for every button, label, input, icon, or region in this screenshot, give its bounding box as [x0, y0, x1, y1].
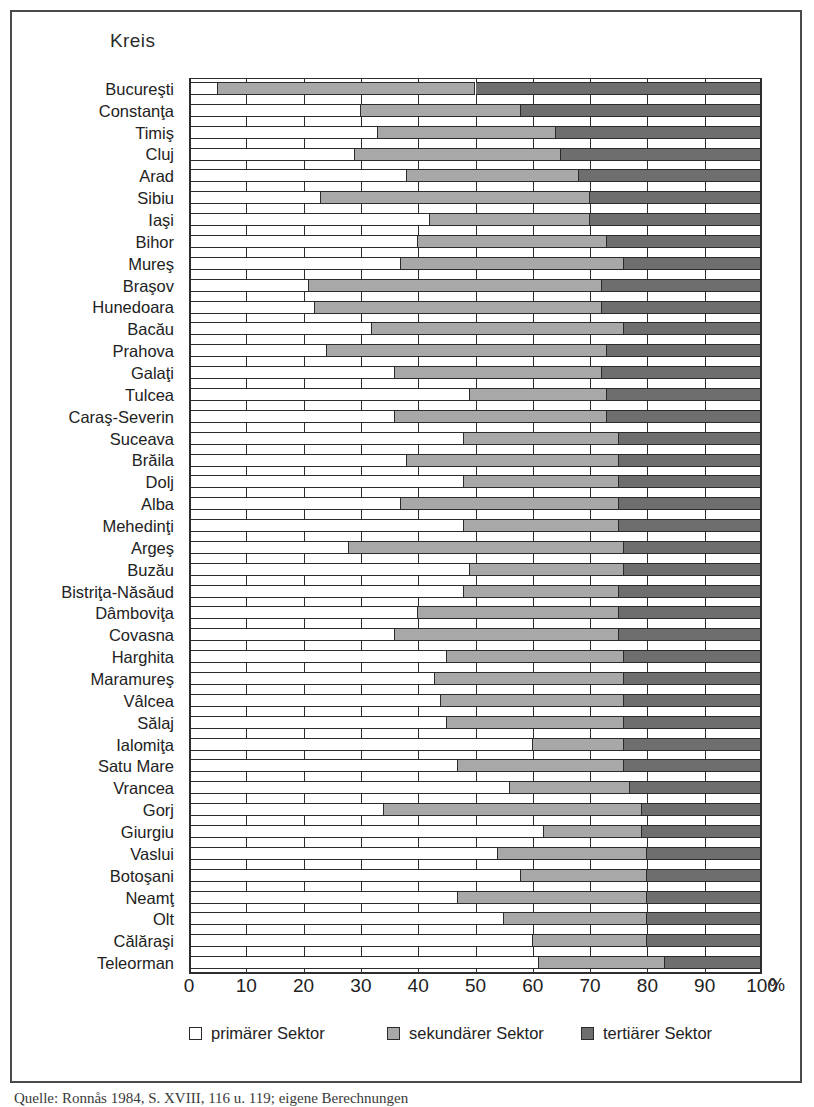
plot-area: [189, 78, 762, 974]
bar-segment-primary: [189, 585, 464, 598]
bar-segment-tertiary: [607, 344, 762, 357]
stacked-bar: [189, 606, 762, 619]
bar-segment-secondary: [395, 628, 618, 641]
y-axis-label: Gorj: [143, 801, 174, 819]
bar-segment-tertiary: [624, 672, 762, 685]
bar-row: [189, 100, 762, 122]
bar-row: [189, 559, 762, 581]
y-axis-label: Buzău: [127, 561, 174, 579]
x-tick-label: 40: [408, 975, 429, 997]
bar-segment-tertiary: [624, 738, 762, 751]
legend-item-tertiary: tertiärer Sektor: [581, 1024, 712, 1043]
bar-row: [189, 340, 762, 362]
y-axis-label: Maramureş: [91, 670, 174, 688]
bar-segment-secondary: [464, 519, 619, 532]
bar-row: [189, 843, 762, 865]
stacked-bar: [189, 235, 762, 248]
bar-segment-primary: [189, 694, 441, 707]
bar-row: [189, 602, 762, 624]
bar-segment-primary: [189, 628, 395, 641]
bar-segment-secondary: [384, 803, 642, 816]
y-axis-label: Tulcea: [125, 386, 174, 404]
bar-segment-primary: [189, 781, 510, 794]
bar-row: [189, 144, 762, 166]
bar-segment-primary: [189, 934, 533, 947]
bar-segment-secondary: [510, 781, 630, 794]
bar-segment-primary: [189, 759, 458, 772]
bar-segment-tertiary: [602, 301, 762, 314]
stacked-bar: [189, 541, 762, 554]
bar-segment-secondary: [361, 104, 521, 117]
bar-segment-secondary: [321, 191, 590, 204]
bar-row: [189, 253, 762, 275]
bar-row: [189, 930, 762, 952]
bar-segment-secondary: [464, 475, 619, 488]
y-axis-label: Prahova: [113, 342, 174, 360]
bar-row: [189, 275, 762, 297]
bar-segment-tertiary: [619, 519, 762, 532]
bar-segment-tertiary: [619, 475, 762, 488]
legend-label: tertiärer Sektor: [603, 1024, 712, 1043]
x-tick-label: 70: [580, 975, 601, 997]
bar-segment-secondary: [401, 497, 619, 510]
stacked-bar: [189, 738, 762, 751]
x-tick-label: 20: [293, 975, 314, 997]
bar-segment-primary: [189, 716, 447, 729]
bar-segment-primary: [189, 213, 430, 226]
stacked-bar: [189, 672, 762, 685]
stacked-bar: [189, 781, 762, 794]
bar-segment-secondary: [521, 869, 647, 882]
bar-segment-primary: [189, 257, 401, 270]
bar-row: [189, 690, 762, 712]
bar-row: [189, 581, 762, 603]
bar-segment-primary: [189, 279, 309, 292]
bar-segment-tertiary: [590, 213, 762, 226]
x-tick-label: 30: [350, 975, 371, 997]
bar-segment-primary: [189, 366, 395, 379]
x-tick-label: 60: [522, 975, 543, 997]
bar-row: [189, 187, 762, 209]
bar-segment-secondary: [309, 279, 601, 292]
figure-frame: Kreis BucureştiConstanţaTimişClujAradSib…: [10, 10, 802, 1083]
x-tick-label: 50: [465, 975, 486, 997]
y-axis-label: Mehedinţi: [102, 517, 174, 535]
bar-segment-secondary: [395, 366, 601, 379]
bar-segment-tertiary: [619, 454, 762, 467]
y-axis-label: Arad: [139, 167, 174, 185]
bar-segment-secondary: [498, 847, 647, 860]
bar-segment-secondary: [418, 606, 619, 619]
bar-segment-tertiary: [607, 235, 762, 248]
y-axis-label: Galaţi: [131, 364, 174, 382]
bar-segment-primary: [189, 738, 533, 751]
legend-label: primärer Sektor: [211, 1024, 325, 1043]
stacked-bar: [189, 628, 762, 641]
bar-segment-secondary: [447, 716, 625, 729]
stacked-bar: [189, 891, 762, 904]
y-axis-label: Olt: [153, 910, 174, 928]
legend-swatch-icon: [581, 1027, 594, 1040]
bar-segment-primary: [189, 912, 504, 925]
bar-segment-primary: [189, 497, 401, 510]
bar-segment-tertiary: [624, 257, 762, 270]
bar-segment-tertiary: [642, 803, 762, 816]
y-axis-label: Călăraşi: [113, 932, 174, 950]
stacked-bar: [189, 388, 762, 401]
bar-segment-tertiary: [619, 585, 762, 598]
bar-segment-secondary: [418, 235, 607, 248]
legend-label: sekundärer Sektor: [409, 1024, 544, 1043]
bar-row: [189, 624, 762, 646]
stacked-bar: [189, 497, 762, 510]
bar-segment-tertiary: [590, 191, 762, 204]
stacked-bar: [189, 716, 762, 729]
bar-row: [189, 362, 762, 384]
legend-item-primary: primärer Sektor: [189, 1024, 325, 1043]
y-axis-label: Vrancea: [113, 779, 174, 797]
bar-segment-tertiary: [624, 563, 762, 576]
bar-segment-tertiary: [647, 869, 762, 882]
stacked-bar: [189, 847, 762, 860]
stacked-bar: [189, 759, 762, 772]
bar-row: [189, 908, 762, 930]
bar-segment-primary: [189, 191, 321, 204]
bar-segment-primary: [189, 169, 407, 182]
legend: primärer Sektorsekundärer Sektortertiäre…: [189, 1024, 749, 1050]
